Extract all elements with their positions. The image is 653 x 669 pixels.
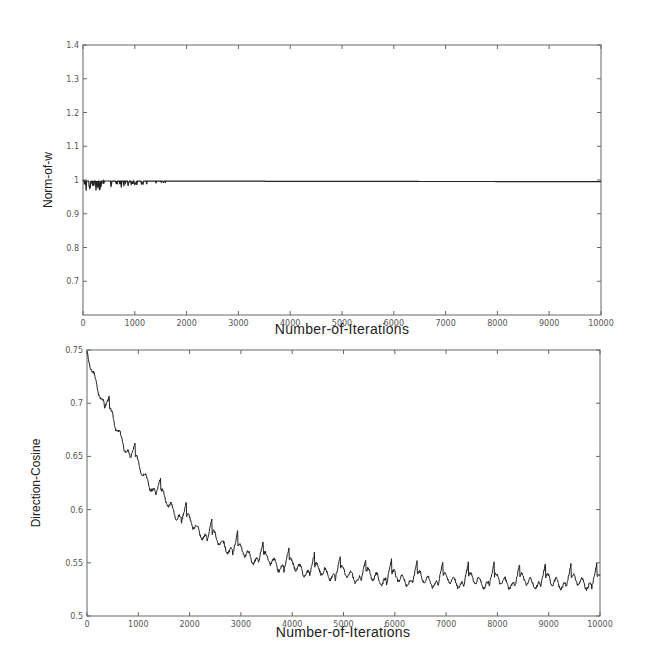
x-tick-label: 3000	[228, 319, 248, 328]
y-tick-label: 0.65	[65, 452, 83, 461]
x-tick-label: 10000	[588, 319, 613, 328]
y-tick-label: 0.6	[70, 506, 83, 515]
top-x-ticks: 0100020003000400050006000700080009000100…	[80, 45, 613, 328]
y-tick-label: 1.3	[66, 75, 79, 84]
y-tick-label: 1.4	[66, 41, 79, 50]
y-tick-label: 1	[74, 176, 79, 185]
top-y-axis-label: Norm-of-w	[41, 152, 55, 208]
bottom-y-axis-label: Direction-Cosine	[29, 438, 43, 527]
x-tick-label: 1000	[128, 620, 148, 629]
y-tick-label: 0.5	[70, 612, 83, 621]
x-tick-label: 1000	[125, 319, 145, 328]
x-tick-label: 8000	[487, 319, 507, 328]
y-tick-label: 1.2	[66, 109, 79, 118]
x-tick-label: 2000	[176, 319, 196, 328]
top-axes-frame	[83, 45, 601, 315]
direction-cosine-line	[87, 351, 600, 590]
y-tick-label: 0.7	[70, 399, 83, 408]
x-tick-label: 0	[80, 319, 85, 328]
x-tick-label: 9000	[539, 620, 559, 629]
x-tick-label: 10000	[587, 620, 612, 629]
x-tick-label: 2000	[179, 620, 199, 629]
x-tick-label: 9000	[539, 319, 559, 328]
norm-line	[83, 180, 601, 191]
bottom-x-axis-label: Number-of-Iterations	[276, 624, 410, 640]
x-tick-label: 7000	[436, 620, 456, 629]
norm-of-w-plot: 0100020003000400050006000700080009000100…	[41, 41, 614, 337]
y-tick-label: 0.9	[66, 210, 79, 219]
y-tick-label: 0.55	[65, 559, 83, 568]
x-tick-label: 0	[84, 620, 89, 629]
x-tick-label: 8000	[487, 620, 507, 629]
y-tick-label: 0.7	[66, 277, 79, 286]
top-x-axis-label: Number-of-Iterations	[275, 321, 409, 337]
top-y-ticks: 0.70.80.911.11.21.31.4	[66, 41, 601, 286]
x-tick-label: 7000	[435, 319, 455, 328]
y-tick-label: 0.8	[66, 244, 79, 253]
x-tick-label: 3000	[231, 620, 251, 629]
y-tick-label: 1.1	[66, 142, 79, 151]
figure: 0100020003000400050006000700080009000100…	[0, 0, 653, 669]
bottom-y-ticks: 0.50.550.60.650.70.75	[65, 346, 600, 621]
direction-cosine-plot: 0100020003000400050006000700080009000100…	[29, 346, 613, 640]
y-tick-label: 0.75	[65, 346, 83, 355]
